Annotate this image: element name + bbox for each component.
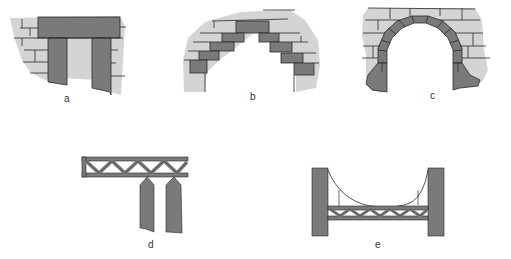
figure-d-cantilever-truss — [82, 157, 188, 233]
figure-b-corbelled-arch — [183, 10, 320, 92]
structures-diagram — [0, 0, 511, 259]
figure-label-d: d — [148, 239, 154, 250]
figure-label-b: b — [250, 91, 256, 102]
figure-label-c: c — [430, 90, 435, 101]
figure-label-e: e — [375, 239, 381, 250]
figure-label-a: a — [64, 93, 70, 104]
figure-a-post-and-lintel — [10, 16, 126, 95]
figure-c-true-arch — [362, 8, 490, 93]
figure-e-suspension — [312, 168, 444, 236]
